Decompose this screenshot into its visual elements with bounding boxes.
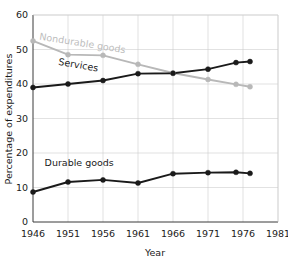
data-point-marker xyxy=(66,82,71,87)
data-point-marker xyxy=(206,67,211,72)
data-point-marker xyxy=(171,71,176,76)
data-point-marker xyxy=(101,177,106,182)
chart-container: 0102030405060 19461951195619611966197119… xyxy=(0,0,288,263)
data-point-marker xyxy=(234,170,239,175)
series-inline-label: Nondurable goods xyxy=(39,31,127,55)
y-tick-label: 40 xyxy=(16,78,28,89)
y-tick-label: 60 xyxy=(16,9,28,20)
data-point-marker xyxy=(101,78,106,83)
data-point-marker xyxy=(31,189,36,194)
x-tick-label: 1946 xyxy=(21,228,45,239)
x-tick-label: 1951 xyxy=(56,228,80,239)
series-inline-label: Durable goods xyxy=(45,157,114,168)
data-point-marker xyxy=(136,181,141,186)
series-inline-labels: Nondurable goodsServicesDurable goods xyxy=(39,31,127,168)
data-point-marker xyxy=(31,85,36,90)
y-tick-label: 20 xyxy=(16,147,28,158)
data-point-marker xyxy=(248,84,253,89)
y-tick-labels: 0102030405060 xyxy=(16,9,28,227)
data-point-marker xyxy=(206,170,211,175)
data-point-marker xyxy=(206,77,211,82)
y-tick-label: 30 xyxy=(16,113,28,124)
x-tick-label: 1961 xyxy=(126,228,150,239)
x-tick-labels: 19461951195619611966197119761981 xyxy=(21,228,288,239)
y-axis-title: Percentage of expenditures xyxy=(3,54,14,185)
expenditures-line-chart: 0102030405060 19461951195619611966197119… xyxy=(0,0,288,263)
x-tick-label: 1956 xyxy=(91,228,115,239)
data-point-marker xyxy=(136,62,141,67)
y-tick-label: 0 xyxy=(22,216,28,227)
x-axis-title: Year xyxy=(144,247,165,258)
data-point-marker xyxy=(248,59,253,64)
x-tick-label: 1981 xyxy=(266,228,288,239)
x-tick-label: 1976 xyxy=(231,228,255,239)
data-point-marker xyxy=(234,60,239,65)
data-point-marker xyxy=(136,71,141,76)
data-point-marker xyxy=(171,171,176,176)
data-point-marker xyxy=(234,82,239,87)
series-inline-label: Services xyxy=(58,56,99,74)
data-point-marker xyxy=(101,53,106,58)
data-point-marker xyxy=(248,171,253,176)
x-tick-label: 1966 xyxy=(161,228,185,239)
data-point-marker xyxy=(66,179,71,184)
x-tick-label: 1971 xyxy=(196,228,220,239)
y-tick-label: 10 xyxy=(16,182,28,193)
data-point-marker xyxy=(31,38,36,43)
y-tick-label: 50 xyxy=(16,44,28,55)
